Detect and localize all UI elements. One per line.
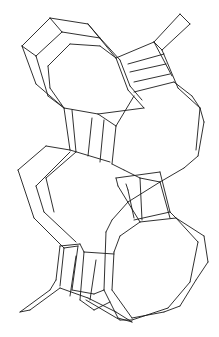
bond-edge — [104, 232, 106, 290]
bond-edge — [98, 114, 116, 126]
bond-edge — [120, 222, 140, 236]
bond-edge — [100, 38, 120, 60]
bond-edge — [116, 312, 132, 322]
bond-edge — [126, 184, 128, 190]
bond-edge — [22, 18, 50, 46]
bond-edge — [128, 182, 160, 202]
bond-edge — [116, 58, 128, 90]
bond-edge — [154, 14, 180, 42]
bond-edge — [60, 248, 64, 286]
bond-edge — [84, 252, 114, 254]
bond-edge — [204, 236, 208, 262]
bond-edge — [114, 236, 120, 252]
bond-edge — [130, 64, 166, 72]
bond-edge — [46, 152, 76, 178]
bond-edge — [180, 14, 190, 24]
bond-edge — [34, 218, 64, 248]
bond-edge — [160, 168, 184, 182]
bond-edge — [64, 108, 70, 150]
bond-edge — [50, 18, 88, 24]
bond-edge — [112, 202, 128, 220]
bond-edge — [112, 252, 114, 290]
bond-edge — [174, 82, 192, 96]
bond-edge — [48, 96, 64, 108]
bond-edge — [64, 246, 78, 248]
bond-edge — [200, 108, 204, 122]
bond-edge — [80, 244, 84, 252]
framework-edges — [18, 14, 208, 322]
bond-edge — [100, 120, 104, 162]
bond-edge — [184, 156, 198, 168]
bond-edge — [36, 182, 40, 186]
bond-edge — [80, 252, 84, 300]
bond-edge — [118, 186, 140, 222]
bond-edge — [162, 50, 178, 88]
bond-edge — [36, 56, 48, 96]
bond-edge — [160, 182, 170, 218]
bond-edge — [86, 300, 120, 320]
bond-edge — [88, 118, 92, 156]
bond-edge — [46, 178, 54, 212]
bond-edge — [62, 32, 100, 38]
bond-edge — [196, 108, 200, 150]
bond-edge — [112, 164, 124, 170]
bond-edge — [98, 108, 144, 114]
bond-edge — [18, 170, 34, 218]
bond-edge — [70, 44, 100, 46]
bond-edge — [50, 18, 62, 32]
bond-edge — [44, 212, 76, 242]
bond-edge — [140, 178, 160, 182]
bond-edge — [72, 110, 76, 152]
bond-edge — [36, 186, 44, 212]
bond-edge — [140, 218, 176, 222]
bond-edge — [30, 288, 60, 310]
bond-edge — [46, 146, 70, 150]
bond-edge — [112, 290, 132, 318]
bond-edge — [60, 288, 88, 298]
bond-edge — [106, 220, 112, 232]
bond-edge — [128, 54, 164, 64]
bond-edge — [64, 108, 98, 114]
bond-edge — [198, 122, 204, 156]
framework-diagram — [0, 0, 219, 337]
bond-edge — [22, 46, 36, 84]
bond-edge — [18, 146, 46, 170]
bond-edge — [116, 42, 154, 58]
bond-edge — [20, 290, 50, 312]
bond-edge — [162, 24, 190, 50]
bond-edge — [80, 300, 94, 310]
bond-edge — [94, 290, 104, 294]
bond-edge — [48, 66, 50, 88]
bond-edge — [134, 82, 174, 92]
bond-edge — [130, 86, 142, 100]
bond-edge — [170, 212, 176, 218]
bond-edge — [50, 280, 56, 290]
bond-edge — [134, 74, 170, 82]
bond-edge — [112, 126, 116, 164]
bond-edge — [140, 178, 142, 220]
bond-edge — [36, 32, 62, 56]
bond-edge — [56, 246, 60, 280]
bond-edge — [134, 212, 170, 220]
bond-edge — [196, 262, 208, 280]
bond-edge — [160, 172, 170, 212]
bond-edge — [48, 44, 70, 66]
bond-edge — [132, 308, 168, 320]
bond-edge — [178, 88, 200, 108]
bond-edge — [40, 152, 70, 182]
bond-edge — [154, 42, 172, 76]
bond-edge — [72, 246, 78, 290]
bond-edge — [88, 24, 116, 58]
bond-edge — [190, 242, 198, 282]
bond-edge — [116, 178, 118, 186]
